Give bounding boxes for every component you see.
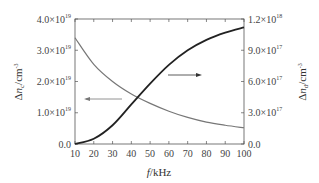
left-tick-label: 0.0 — [59, 139, 72, 150]
right-tick-label: 0.0 — [248, 139, 261, 150]
y-left-axis-label: Δnc/cm-3 — [12, 63, 26, 100]
x-tick-label: 100 — [237, 148, 252, 159]
left-tick-label: 2.0×1019 — [37, 75, 71, 87]
left-tick-label: 1.0×1019 — [37, 106, 71, 118]
x-axis-ticks: 102030405060708090100 — [70, 19, 252, 159]
left-tick-label: 3.0×1019 — [37, 44, 71, 56]
x-tick-label: 70 — [183, 148, 193, 159]
right-tick-label: 3.0×1017 — [248, 106, 282, 118]
x-tick-label: 20 — [89, 148, 99, 159]
curve-delta-nd — [75, 27, 244, 144]
x-tick-label: 80 — [201, 148, 211, 159]
x-tick-label: 90 — [220, 148, 230, 159]
x-tick-label: 30 — [108, 148, 118, 159]
x-tick-label: 10 — [70, 148, 80, 159]
left-axis-ticks: 0.01.0×10192.0×10193.0×10194.0×1019 — [37, 13, 78, 150]
arrow-right-icon — [168, 73, 202, 77]
right-tick-label: 9.0×1017 — [248, 44, 282, 56]
x-tick-label: 40 — [126, 148, 136, 159]
right-axis-ticks: 0.03.0×10176.0×10179.0×10171.2×1018 — [241, 13, 282, 150]
left-tick-label: 4.0×1019 — [37, 13, 71, 25]
x-axis-label: f/kHz — [147, 166, 172, 178]
y-right-axis-label: Δnd/cm-3 — [296, 63, 310, 101]
right-tick-label: 1.2×1018 — [248, 13, 282, 25]
arrow-left-icon — [84, 97, 122, 101]
chart: 102030405060708090100 0.01.0×10192.0×101… — [0, 0, 319, 183]
curve-delta-nc — [75, 38, 244, 128]
plot-frame — [75, 19, 244, 144]
x-tick-label: 50 — [145, 148, 155, 159]
right-tick-label: 6.0×1017 — [248, 75, 282, 87]
x-tick-label: 60 — [164, 148, 174, 159]
